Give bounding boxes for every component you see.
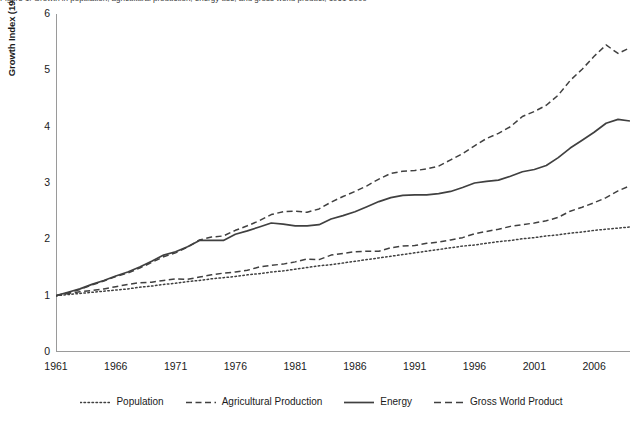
plot-area [56,14,630,352]
x-tick-label: 1981 [275,360,315,372]
y-tick-label: 1 [22,290,50,300]
legend-swatch [186,398,216,407]
legend-item: Population [80,396,163,408]
y-tick-label: 4 [22,121,50,131]
legend-label: Gross World Product [470,396,563,408]
legend-item: Agricultural Production [186,396,323,408]
x-tick-label: 1961 [36,360,76,372]
x-tick-label: 1966 [96,360,136,372]
legend-label: Agricultural Production [222,396,323,408]
y-tick-label: 3 [22,177,50,187]
x-tick-label: 1971 [156,360,196,372]
legend-item: Gross World Product [434,396,563,408]
x-tick-label: 1991 [395,360,435,372]
series-line [56,119,630,295]
legend-label: Population [116,396,163,408]
series-line [56,45,630,296]
legend-swatch [80,398,110,407]
axis-lines [56,14,630,352]
series-line [56,186,630,296]
x-tick-label: 2006 [574,360,614,372]
x-tick-label: 1986 [335,360,375,372]
series-line [56,227,630,296]
legend-swatch [344,398,374,407]
x-tick-label: 1976 [215,360,255,372]
legend-swatch [434,398,464,407]
legend-item: Energy [344,396,412,408]
y-tick-label: 5 [22,64,50,74]
x-tick-label: 2001 [514,360,554,372]
legend-label: Energy [380,396,412,408]
chart-legend: PopulationAgricultural ProductionEnergyG… [0,392,643,412]
chart-container: Figure 1. Growth in population, agricult… [0,0,643,421]
x-tick-label: 1996 [455,360,495,372]
y-tick-label: 2 [22,233,50,243]
y-tick-label: 0 [22,346,50,356]
y-axis-label: Growth Index (1960 = 1.0) [6,0,17,95]
y-tick-label: 6 [22,8,50,18]
figure-caption: Figure 1. Growth in population, agricult… [0,0,640,4]
